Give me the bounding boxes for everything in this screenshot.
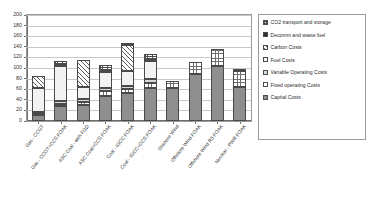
bar-segment <box>144 83 157 88</box>
legend-label: Fuel Costs <box>271 57 295 63</box>
legend-item: Variable Operating Costs <box>263 69 362 78</box>
legend: CO2 transport and storageDecomm and wast… <box>258 14 366 140</box>
x-tick-label: Gas - CCGT <box>24 124 45 149</box>
legend-swatch-icon <box>263 45 268 50</box>
bar-segment <box>77 99 90 102</box>
bar-segment <box>32 76 45 88</box>
bar-segment <box>233 87 246 121</box>
bar-segment <box>121 89 134 93</box>
bar-segment <box>233 69 246 72</box>
bar-segment <box>189 74 202 121</box>
bar-column <box>99 51 112 121</box>
bar-column <box>189 62 202 121</box>
bar-segment <box>99 65 112 70</box>
bar-segment <box>77 105 90 121</box>
bar-segment <box>77 60 90 87</box>
x-tick-label: Onshore Wind <box>156 124 180 152</box>
legend-item: Decomm and waste fuel <box>263 32 362 41</box>
y-tick-label: 140 <box>13 44 22 49</box>
y-tick-label: 60 <box>16 86 22 91</box>
x-tick-mark <box>150 122 151 124</box>
bar-segment <box>144 61 157 79</box>
y-tick-label: 80 <box>16 76 22 81</box>
bar-segment <box>54 61 67 65</box>
bar-column <box>32 76 45 121</box>
bar-segment <box>54 101 67 103</box>
bar-segment <box>121 43 134 45</box>
bar-segment <box>99 88 112 92</box>
bar-column <box>121 44 134 121</box>
bar-segment <box>121 93 134 121</box>
x-tick-mark <box>38 122 39 124</box>
stacked-bar-chart: 020406080100120140160180200 Gas - CCGTGa… <box>0 0 369 202</box>
y-tick-label: 40 <box>16 97 22 102</box>
legend-label: Variable Operating Costs <box>271 69 328 75</box>
bar-column <box>233 69 246 121</box>
legend-label: Decomm and waste fuel <box>271 32 326 38</box>
legend-swatch-icon <box>263 95 268 100</box>
bar-column <box>211 49 224 121</box>
legend-item: Carbon Costs <box>263 44 362 53</box>
bar-segment <box>99 91 112 95</box>
legend-label: Fixed operating Costs <box>271 82 321 88</box>
legend-item: Capital Costs <box>263 94 362 103</box>
legend-item: CO2 transport and storage <box>263 19 362 28</box>
legend-swatch-icon <box>263 32 268 37</box>
bar-segment <box>211 66 224 121</box>
bar-column <box>144 47 157 121</box>
x-tick-mark <box>61 122 62 124</box>
x-tick-mark <box>240 122 241 124</box>
legend-swatch-icon <box>263 70 268 75</box>
bar-segment <box>99 96 112 121</box>
bar-column <box>54 61 67 121</box>
bars-layer <box>27 15 251 121</box>
bar-segment <box>54 104 67 107</box>
bar-segment <box>166 88 179 121</box>
bar-segment <box>32 88 45 112</box>
x-tick-mark <box>128 122 129 124</box>
legend-swatch-icon <box>263 57 268 62</box>
bar-segment <box>54 106 67 121</box>
y-tick-label: 20 <box>16 107 22 112</box>
legend-swatch-icon <box>263 20 268 25</box>
y-tick-label: 200 <box>13 12 22 17</box>
legend-swatch-icon <box>263 82 268 87</box>
x-tick-mark <box>105 122 106 124</box>
bar-segment <box>121 45 134 70</box>
bar-column <box>77 60 90 121</box>
bar-segment <box>121 86 134 90</box>
x-tick-mark <box>173 122 174 124</box>
bar-segment <box>99 72 112 88</box>
y-tick-label: 180 <box>13 23 22 28</box>
legend-label: Carbon Costs <box>271 44 302 50</box>
legend-label: Capital Costs <box>271 94 301 100</box>
legend-item: Fixed operating Costs <box>263 82 362 91</box>
y-tick-label: 160 <box>13 33 22 38</box>
x-tick-mark <box>195 122 196 124</box>
bar-segment <box>121 71 134 86</box>
bar-segment <box>77 87 90 100</box>
bar-segment <box>189 62 202 75</box>
x-tick-mark <box>83 122 84 124</box>
y-tick-label: 100 <box>13 65 22 70</box>
bar-column <box>166 81 179 121</box>
bar-segment <box>77 102 90 105</box>
bar-segment <box>144 54 157 60</box>
bar-segment <box>211 49 224 65</box>
bar-segment <box>32 115 45 121</box>
bar-segment <box>54 66 67 101</box>
x-axis-labels: Gas - CCGTGas - CCGT+CCS FOAKASC Coal - … <box>27 124 251 202</box>
bar-segment <box>233 71 246 87</box>
y-tick-label: 0 <box>19 118 22 123</box>
x-tick-mark <box>217 122 218 124</box>
y-tick-label: 120 <box>13 54 22 59</box>
bar-segment <box>166 81 179 88</box>
y-axis: 020406080100120140160180200 <box>0 14 24 122</box>
bar-segment <box>144 79 157 83</box>
legend-item: Fuel Costs <box>263 57 362 66</box>
bar-segment <box>144 88 157 121</box>
legend-label: CO2 transport and storage <box>271 19 331 25</box>
